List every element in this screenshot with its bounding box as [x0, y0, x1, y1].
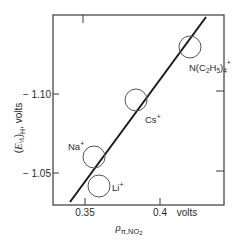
label-na-charge: + [80, 140, 84, 147]
chart: − 1.10 − 1.05 0.35 0.4 volts ρπ,NO2 (E½)… [0, 0, 246, 242]
x-axis-title-sub: π,NO [121, 227, 140, 236]
label-li-name: Li [112, 182, 119, 193]
x-axis-title-sub2: 2 [139, 230, 143, 236]
label-na-name: Na [68, 141, 81, 152]
y-axis-title: (E½)H, volts [12, 103, 26, 153]
label-nc2h54-charge: + [227, 59, 231, 66]
x-axis-title: ρπ,NO2 [114, 221, 143, 236]
x-tick-label-0.4: 0.4 [153, 207, 167, 218]
point-li [88, 175, 110, 197]
label-li: Li+ [112, 181, 124, 193]
y-tick-label-1.10: − 1.10 [23, 89, 52, 100]
point-cs [125, 89, 147, 111]
label-cs-charge: + [157, 113, 161, 120]
label-nc2h54: N(C2H5)4+ [189, 59, 231, 74]
label-cs: Cs+ [145, 113, 161, 125]
x-unit-label: volts [177, 207, 198, 218]
label-cs-name: Cs [145, 114, 157, 125]
x-tick-label-0.35: 0.35 [75, 207, 95, 218]
y-axis-title-unit: , volts [13, 103, 24, 129]
label-nc2h54-a: N(C [189, 62, 206, 73]
y-tick-label-1.05: − 1.05 [23, 168, 52, 179]
fit-line [70, 17, 206, 202]
label-li-charge: + [119, 181, 123, 188]
label-na: Na+ [68, 140, 84, 152]
point-na [83, 146, 105, 168]
